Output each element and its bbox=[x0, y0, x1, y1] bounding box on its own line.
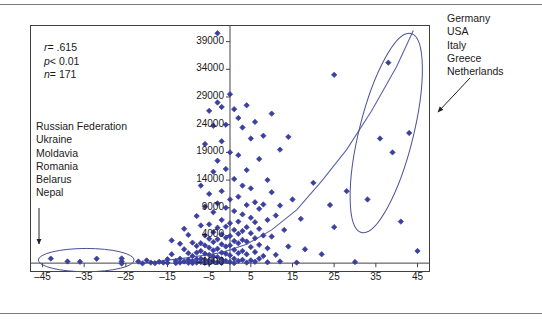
arrow-to-right-ellipse bbox=[438, 78, 470, 112]
x-tick-label: –25 bbox=[106, 271, 146, 282]
y-tick-label: 9000 bbox=[178, 201, 224, 212]
y-tick-label: 34000 bbox=[178, 62, 224, 73]
x-tick-label: 45 bbox=[398, 271, 438, 282]
y-tick-label: –1000 bbox=[178, 256, 224, 267]
x-tick-label: –45 bbox=[23, 271, 63, 282]
y-tick-label: 29000 bbox=[178, 90, 224, 101]
y-tick-label: 39000 bbox=[178, 35, 224, 46]
x-tick-label: –35 bbox=[64, 271, 104, 282]
y-tick-label: 4000 bbox=[178, 228, 224, 239]
y-tick-label: 14000 bbox=[178, 173, 224, 184]
x-tick-label: 25 bbox=[314, 271, 354, 282]
x-tick-label: 5 bbox=[231, 271, 271, 282]
y-tick-label: 24000 bbox=[178, 118, 224, 129]
x-tick-label: –5 bbox=[189, 271, 229, 282]
x-tick-label: 15 bbox=[273, 271, 313, 282]
figure-container: r= .615 p< 0.01 n= 171 Russian Federatio… bbox=[0, 0, 542, 323]
y-tick-label: 19000 bbox=[178, 145, 224, 156]
x-tick-label: 35 bbox=[356, 271, 396, 282]
x-tick-label: –15 bbox=[148, 271, 188, 282]
